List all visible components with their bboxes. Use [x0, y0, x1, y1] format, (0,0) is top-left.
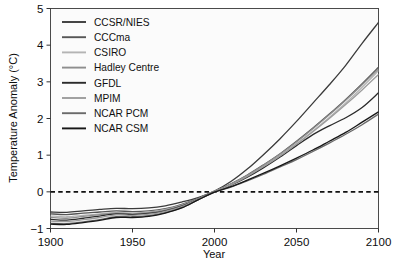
legend-label-4: GFDL [94, 78, 122, 89]
y-tick-label: 2 [37, 113, 43, 125]
legend-label-0: CCSR/NIES [94, 17, 150, 28]
line-chart: −1012345 19001950200020502100 CCSR/NIESC… [0, 0, 397, 268]
y-tick-label: −1 [30, 223, 43, 235]
chart-figure: −1012345 19001950200020502100 CCSR/NIESC… [0, 0, 397, 268]
legend-label-2: CSIRO [94, 47, 126, 58]
legend-label-3: Hadley Centre [94, 62, 159, 73]
legend-label-1: CCCma [94, 32, 131, 43]
y-tick-label: 0 [37, 186, 43, 198]
y-tick-label: 1 [37, 149, 43, 161]
legend-label-7: NCAR CSM [94, 123, 148, 134]
legend-label-6: NCAR PCM [94, 108, 148, 119]
x-tick-label: 1950 [120, 236, 146, 248]
x-tick-label: 2000 [202, 236, 228, 248]
legend-label-5: MPIM [94, 93, 121, 104]
y-tick-label: 5 [37, 3, 43, 15]
y-axis-title: Temperature Anomaly (°C) [7, 53, 19, 183]
y-tick-label: 3 [37, 76, 43, 88]
x-tick-label: 2050 [284, 236, 310, 248]
x-tick-label: 1900 [38, 236, 64, 248]
x-axis-title: Year [203, 248, 226, 260]
y-tick-label: 4 [37, 39, 44, 51]
x-tick-label: 2100 [366, 236, 392, 248]
